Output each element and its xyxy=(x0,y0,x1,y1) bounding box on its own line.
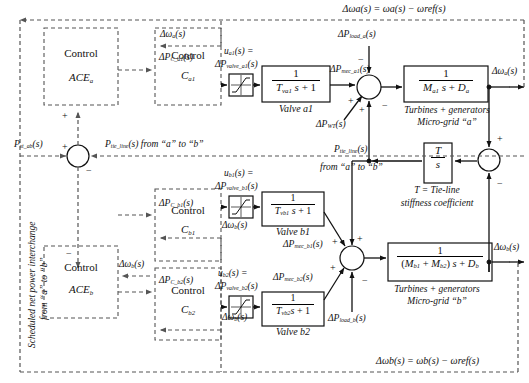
sign-plus-tie-b: + xyxy=(357,233,363,244)
signal-p-tie-line-mid-line2: from “a” to “b” xyxy=(320,163,383,173)
control-ace-a-title: Control xyxy=(44,48,118,60)
valve-a1-caption: Valve a1 xyxy=(252,104,340,115)
note-scheduled-interchange-line2: from “a” to “b” xyxy=(40,257,50,320)
sum-junction-grid-b xyxy=(340,246,364,270)
control-cb2-subtitle: Cb2 xyxy=(155,304,221,316)
block-diagram-canvas: Δωa(s) = ωa(s) − ωref(s) Δωb(s) = ωb(s) … xyxy=(0,0,529,383)
signal-delta-omega-a-feedback: Δωa(s) xyxy=(160,30,185,40)
sum-junction-tie xyxy=(478,149,500,171)
grid-b-caption-line2: Micro-grid “b” xyxy=(372,297,502,307)
box-control-ace-b xyxy=(44,246,118,318)
sign-minus-ptie: − xyxy=(86,165,92,176)
signal-delta-p-mec-b1: ΔPmec_b1(s) xyxy=(283,240,323,250)
signal-u-b2-line1: ub2(s) = xyxy=(218,269,247,279)
tie-line-caption-line2: stiffness coefficient xyxy=(368,199,506,209)
signal-u-b1-line1: ub1(s) = xyxy=(224,169,253,179)
signal-delta-omega-a-output: Δωa(s) xyxy=(492,67,517,77)
box-control-ace-a xyxy=(44,28,118,105)
sum-junction-ace xyxy=(67,145,89,167)
sign-plus-wt: + xyxy=(359,104,365,115)
signal-p-tie-line-top: Ptie_line(s) from “a” to “b” xyxy=(105,140,204,150)
signal-delta-omega-b-feedback-ace: Δωb(s) xyxy=(119,260,144,270)
sign-minus-tie-a: − xyxy=(382,100,388,111)
grid-b-caption-line1: Turbines + generators xyxy=(372,285,502,295)
signal-delta-p-load-b: ΔPload_b(s) xyxy=(328,314,366,324)
signal-delta-p-mec-a1: ΔPmec_a1(s) xyxy=(330,65,370,75)
signal-delta-pc-b1: ΔPC_b1(s) xyxy=(159,199,193,209)
signal-u-a1-line2: ΔPvalve_a1(s) xyxy=(215,60,258,70)
signal-delta-p-mec-b2: ΔPmec_b2(s) xyxy=(273,273,313,283)
tie-line-transfer-function: Ts xyxy=(424,145,452,170)
sign-plus-pst-ab: + xyxy=(62,141,68,152)
sign-plus-mec-b1: + xyxy=(332,236,338,247)
valve-b1-caption: Valve b1 xyxy=(252,227,334,238)
sign-plus-mec-b2: + xyxy=(330,262,336,273)
sign-plus-ace-a: + xyxy=(62,110,68,121)
control-ca1-subtitle: Ca1 xyxy=(155,70,221,82)
sign-minus-load-a: − xyxy=(358,54,364,65)
valve-a1-transfer-function: 1Tva1 s + 1 xyxy=(262,68,330,93)
sign-minus-ace-b: − xyxy=(66,248,72,259)
valve-b2-caption: Valve b2 xyxy=(252,327,334,338)
signal-u-b1-line2: ΔPvalve_b1(s) xyxy=(215,182,258,192)
sign-plus-dwa-tie: + xyxy=(497,133,503,144)
signal-u-b2-line2: ΔPvalve_b2(s) xyxy=(215,282,258,292)
signal-delta-omega-b-feedback-cb1: Δωb(s) xyxy=(222,221,247,231)
equation-delta-omega-a: Δωa(s) = ωa(s) − ωref(s) xyxy=(294,4,494,15)
valve-b1-transfer-function: 1Tvb1 s + 1 xyxy=(262,193,324,216)
sign-plus-mec-a1: + xyxy=(348,95,354,106)
sum-junction-grid-a xyxy=(357,75,381,99)
signal-delta-omega-b-feedback-cb2: Δωb(s) xyxy=(222,313,247,323)
sign-minus-dwb-tie: − xyxy=(497,178,503,189)
equation-delta-omega-b: Δωb(s) = ωb(s) − ωref(s) xyxy=(330,356,525,367)
grid-a-transfer-function: 1Ma1 s + Da xyxy=(404,68,488,93)
grid-a-caption-line2: Micro-grid “a” xyxy=(386,118,508,128)
grid-a-caption-line1: Turbines + generators xyxy=(386,106,508,116)
control-cb2-title: Control xyxy=(155,285,221,297)
signal-u-a1-line1: ua1(s) = xyxy=(224,47,253,57)
signal-delta-pc-b2: ΔPC_b2(s) xyxy=(159,276,193,286)
valve-b2-transfer-function: 1Tvb2s + 1 xyxy=(262,293,324,316)
signal-delta-pc-a1: ΔPC_a1(s) xyxy=(159,53,193,63)
tie-line-caption-line1: T = Tie-line xyxy=(373,186,501,196)
control-ace-b-subtitle: ACEb xyxy=(44,284,118,296)
control-ace-b-title: Control xyxy=(44,262,118,274)
signal-delta-omega-b-output: Δωb(s) xyxy=(494,243,519,253)
grid-b-transfer-function: 1(Mb1 + Mb2) s + Db xyxy=(388,245,492,270)
control-ace-a-subtitle: ACEa xyxy=(44,72,118,84)
signal-p-tie-line-mid-line1: Ptie_line(s) xyxy=(334,145,367,155)
signal-p-st-ab: Pst_ab(s) xyxy=(14,140,43,150)
note-scheduled-interchange-line1: Scheduled net power interchange xyxy=(28,221,38,348)
control-cb1-subtitle: Cb1 xyxy=(155,224,221,236)
sign-minus-load-b: − xyxy=(362,275,368,286)
signal-delta-p-load-a: ΔPload_a(s) xyxy=(338,30,376,40)
signal-delta-p-wt: ΔPWT(s) xyxy=(316,120,346,130)
